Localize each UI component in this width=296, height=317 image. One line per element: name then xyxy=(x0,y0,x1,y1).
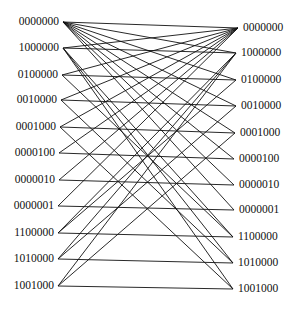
left-node-label: 1001000 xyxy=(0,279,54,291)
right-node-label: 0000000 xyxy=(243,21,283,33)
right-node-label: 0000010 xyxy=(239,178,279,190)
edge-1100000-1000000 xyxy=(58,53,236,233)
right-node-label: 0000001 xyxy=(239,203,279,215)
left-node-label: 0000100 xyxy=(0,146,55,158)
right-node-label: 1000000 xyxy=(241,46,281,58)
edge-1001000-1001000 xyxy=(58,286,233,289)
edge-0100000-0000000 xyxy=(62,28,238,75)
left-node-label: 0100000 xyxy=(2,68,58,80)
edge-0010000-1010000 xyxy=(61,100,233,263)
right-node-label: 1100000 xyxy=(238,230,278,242)
edge-1010000-1000000 xyxy=(58,53,236,259)
left-node-label: 1000000 xyxy=(3,41,59,53)
right-node-label: 0010000 xyxy=(241,99,281,111)
left-node-label: 1100000 xyxy=(0,226,54,238)
left-node-label: 1010000 xyxy=(0,252,54,264)
right-node-label: 0100000 xyxy=(241,73,281,85)
left-node-label: 0000000 xyxy=(3,15,59,27)
right-node-label: 1001000 xyxy=(238,282,278,294)
left-node-label: 0000001 xyxy=(0,199,54,211)
edge-0010000-0000000 xyxy=(61,28,238,100)
edge-1010000-1010000 xyxy=(58,259,233,263)
right-node-label: 0000100 xyxy=(239,152,279,164)
left-node-label: 0010000 xyxy=(1,93,57,105)
left-node-label: 0001000 xyxy=(0,120,56,132)
right-node-label: 1010000 xyxy=(238,256,278,268)
edge-1001000-1000000 xyxy=(58,53,236,286)
right-node-label: 0001000 xyxy=(240,126,280,138)
left-node-label: 0000010 xyxy=(0,173,55,185)
